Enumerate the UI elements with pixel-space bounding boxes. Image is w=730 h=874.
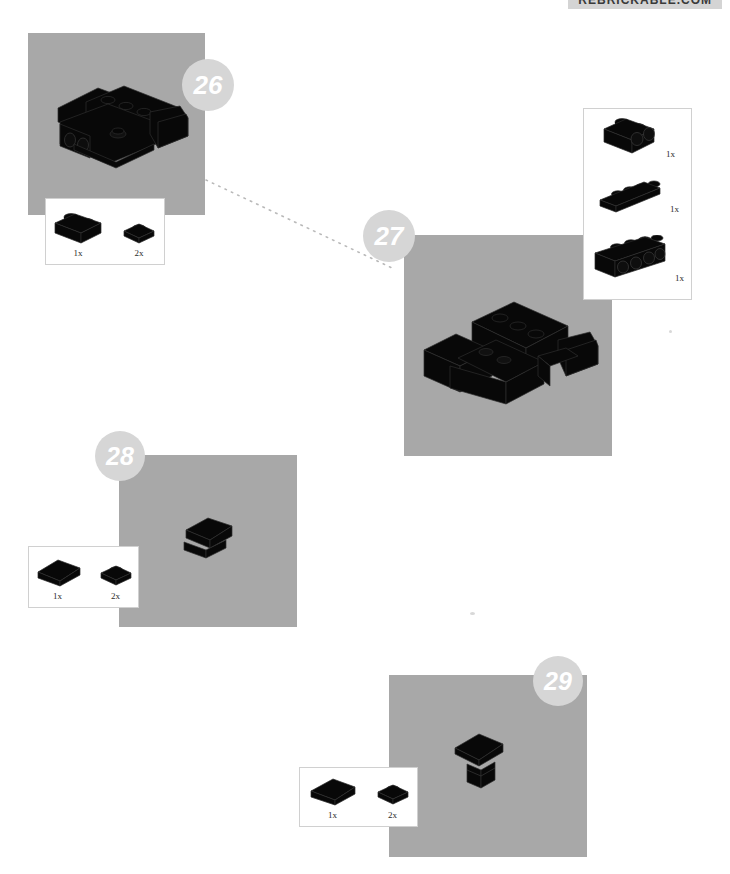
parts-callout-29: 1x 2x [299,767,418,827]
instruction-page: REBRICKABLE.COM [0,0,730,874]
parts-callout-28: 1x 2x [28,546,139,608]
part-qty-label: 2x [111,592,120,601]
part-qty-label: 1x [675,274,684,283]
step-badge-29: 29 [533,656,583,706]
part-entry-plate-1x1: 2x [113,193,163,264]
plate-1x1-icon [98,562,134,590]
brick-1x2-with-holes-icon [600,113,660,159]
step-panel-28 [119,455,297,627]
step-panel-27 [404,235,612,456]
part-qty-label: 1x [74,249,83,258]
part-entry-plate-1x1: 2x [90,541,140,607]
step-badge-27: 27 [363,210,415,262]
paper-speckle [669,330,672,333]
part-qty-label: 2x [388,811,397,820]
slope-brick-2x1-icon [305,775,361,809]
part-qty-label: 1x [53,592,62,601]
part-entry-brick-1x2-with-holes: 1x [584,113,691,159]
part-entry-plate-1x1: 2x [367,762,417,826]
plate-1x1-icon [375,781,411,809]
part-entry-slope-brick: 1x [28,541,90,607]
step-badge-28: 28 [95,431,145,481]
part-qty-label: 1x [666,150,675,159]
step-number-29: 29 [544,669,572,694]
part-entry-brick-1x4-with-holes: 1x [584,235,691,283]
step-number-28: 28 [106,444,134,469]
part-qty-label: 2x [135,249,144,258]
plate-1x4-icon [596,180,664,214]
part-entry-slope-brick: 1x [301,762,367,826]
part-entry-brick-1x2: 1x [47,193,113,264]
part-qty-label: 1x [670,205,679,214]
step-panel-26 [28,33,205,215]
brick-1x2-icon [51,209,105,247]
step-number-26: 26 [194,72,223,98]
site-watermark-banner: REBRICKABLE.COM [568,0,722,9]
step-number-27: 27 [375,223,404,249]
paper-speckle [470,612,475,615]
parts-callout-27: 1x 1x [583,108,692,300]
plate-1x1-icon [121,221,157,247]
site-watermark-text: REBRICKABLE.COM [578,0,712,7]
part-qty-label: 1x [328,811,337,820]
step-badge-26: 26 [182,59,234,111]
part-entry-plate-1x4: 1x [584,180,691,214]
parts-callout-26: 1x 2x [45,198,165,265]
brick-1x4-with-holes-icon [591,235,669,283]
slope-brick-2x1-icon [32,556,84,590]
